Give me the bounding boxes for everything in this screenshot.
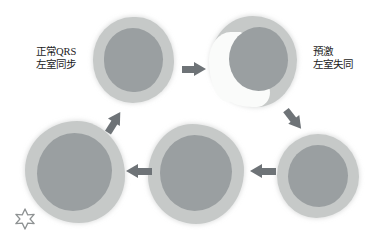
arrow-panel4-to-panel5 (126, 164, 152, 179)
arrow-panel3-to-panel4 (250, 164, 276, 179)
label-preexcitation-line1: 預激 (313, 45, 353, 58)
heart-panel-4[interactable] (148, 124, 244, 224)
heart-panel-2[interactable] (210, 16, 297, 107)
label-normal-qrs-line2: 左室同步 (36, 58, 76, 71)
label-preexcitation: 預激 左室失同 (313, 45, 353, 71)
heart-panel-1[interactable] (93, 17, 174, 103)
label-preexcitation-line2: 左室失同 (313, 58, 353, 71)
arrow-panel1-to-panel2 (182, 62, 207, 77)
heart-panel-5[interactable] (25, 121, 125, 223)
lv-cavity-1 (104, 28, 163, 92)
star-marker[interactable] (14, 208, 36, 230)
diagram-canvas: 正常QRS 左室同步 預激 左室失同 (0, 0, 381, 242)
label-normal-qrs-line1: 正常QRS (36, 45, 76, 58)
label-normal-qrs: 正常QRS 左室同步 (36, 45, 76, 71)
lv-cavity-2 (229, 27, 288, 91)
star-icon (14, 208, 36, 230)
heart-panel-3[interactable] (277, 134, 359, 218)
lv-cavity-3 (288, 145, 348, 207)
